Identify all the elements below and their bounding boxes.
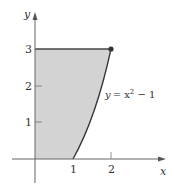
endpoint-dot <box>108 46 113 51</box>
curve-label: y= x2 − 1 <box>104 88 155 100</box>
x-tick-label-2: 2 <box>108 163 115 176</box>
y-axis-arrow-icon <box>33 12 38 20</box>
y-tick-label-2: 2 <box>25 80 32 93</box>
x-tick-label-1: 1 <box>70 163 77 176</box>
y-axis-label: y <box>23 8 31 21</box>
curve-label-eq: = x <box>113 89 131 100</box>
x-axis-label: x <box>160 165 167 178</box>
curve-label-y: y <box>104 89 111 100</box>
chart-canvas: y x 3 2 1 1 2 y= x2 − 1 <box>0 0 172 190</box>
y-tick-label-1: 1 <box>25 116 32 129</box>
curve-label-tail: − 1 <box>134 89 155 100</box>
x-axis-arrow-icon <box>158 157 166 162</box>
y-tick-label-3: 3 <box>25 43 32 56</box>
shaded-region <box>35 49 111 159</box>
